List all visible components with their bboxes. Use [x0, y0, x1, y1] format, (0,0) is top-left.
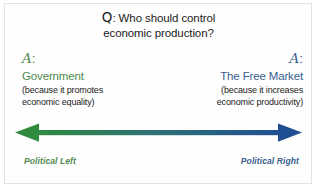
pole-label-right: Political Right: [241, 156, 299, 166]
answer-right-letter: A: [289, 50, 299, 66]
answer-right-letter-row: A:: [163, 50, 303, 67]
question-letter: Q: [102, 9, 113, 25]
answer-left-title: Government: [22, 68, 152, 84]
spectrum-arrow-icon: [12, 120, 305, 148]
answer-left-letter-row: A:: [22, 50, 152, 67]
answer-left-note-line-1: (because it promotes: [22, 85, 152, 97]
answer-left-note: (because it promotes economic equality): [22, 85, 152, 108]
political-spectrum-arrow: [12, 120, 305, 148]
answer-right-block: A: The Free Market (because it increases…: [163, 50, 303, 108]
answer-right-note-line-1: (because it increases: [163, 85, 303, 97]
question-text: Q: Who should control economic productio…: [0, 10, 317, 40]
answer-left-note-line-2: economic equality): [22, 97, 152, 109]
answer-left-block: A: Government (because it promotes econo…: [22, 50, 152, 108]
answer-right-colon: :: [299, 51, 303, 66]
question-line-2: economic production?: [0, 26, 317, 41]
answer-right-title: The Free Market: [163, 68, 303, 84]
answer-right-note: (because it increases economic productiv…: [163, 85, 303, 108]
answer-right-note-line-2: economic productivity): [163, 97, 303, 109]
answer-left-colon: :: [32, 51, 36, 66]
spectrum-diagram: Q: Who should control economic productio…: [0, 0, 317, 189]
answer-left-letter: A: [22, 50, 32, 66]
question-line-1: Who should control: [119, 12, 216, 24]
pole-label-left: Political Left: [24, 156, 76, 166]
